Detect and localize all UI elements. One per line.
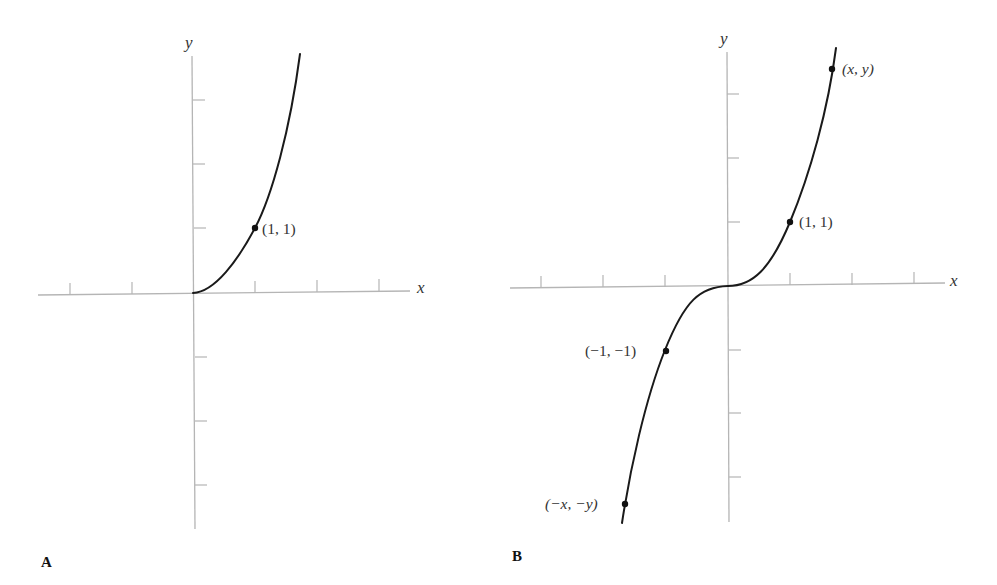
panel-b-plot: [0, 0, 997, 585]
panel-b-y-axis-label: y: [720, 30, 728, 47]
panel-b-point-label-negx-negy: (−x, −y): [545, 496, 598, 512]
panel-b-point-label-neg1-neg1: (−1, −1): [585, 343, 636, 359]
panel-b-point-label-1-1: (1, 1): [799, 214, 833, 230]
panel-b-point-neg1-neg1: [663, 348, 669, 354]
panel-b-point-x-y: [829, 66, 835, 72]
panel-b-point-1-1: [787, 219, 793, 225]
figure: y x (1, 1) A: [0, 0, 997, 585]
panel-b-point-label-x-y: (x, y): [842, 61, 874, 77]
panel-b-label: B: [512, 549, 522, 564]
panel-b-point-negx-negy: [622, 501, 628, 507]
panel-b-x-axis-label: x: [950, 272, 958, 289]
